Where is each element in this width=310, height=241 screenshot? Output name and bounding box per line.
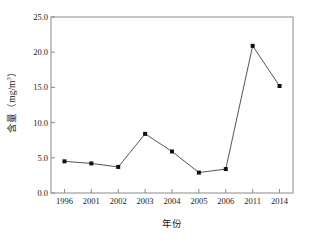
data-point-marker[interactable] [278, 84, 282, 88]
data-point-marker[interactable] [143, 132, 147, 136]
chart-plot-area [0, 0, 310, 241]
data-point-marker[interactable] [89, 161, 93, 165]
data-point-marker[interactable] [116, 165, 120, 169]
data-point-marker[interactable] [197, 171, 201, 175]
data-point-marker[interactable] [224, 167, 228, 171]
data-point-marker[interactable] [170, 149, 174, 153]
x-axis-title: 年份 [51, 216, 293, 230]
data-point-marker[interactable] [62, 159, 66, 163]
plot-frame [51, 17, 293, 193]
data-point-marker[interactable] [251, 44, 255, 48]
chart-figure: 含量（mg/m3） 0.05.010.015.020.025.0 1996200… [0, 0, 310, 241]
data-series-line [64, 46, 279, 173]
